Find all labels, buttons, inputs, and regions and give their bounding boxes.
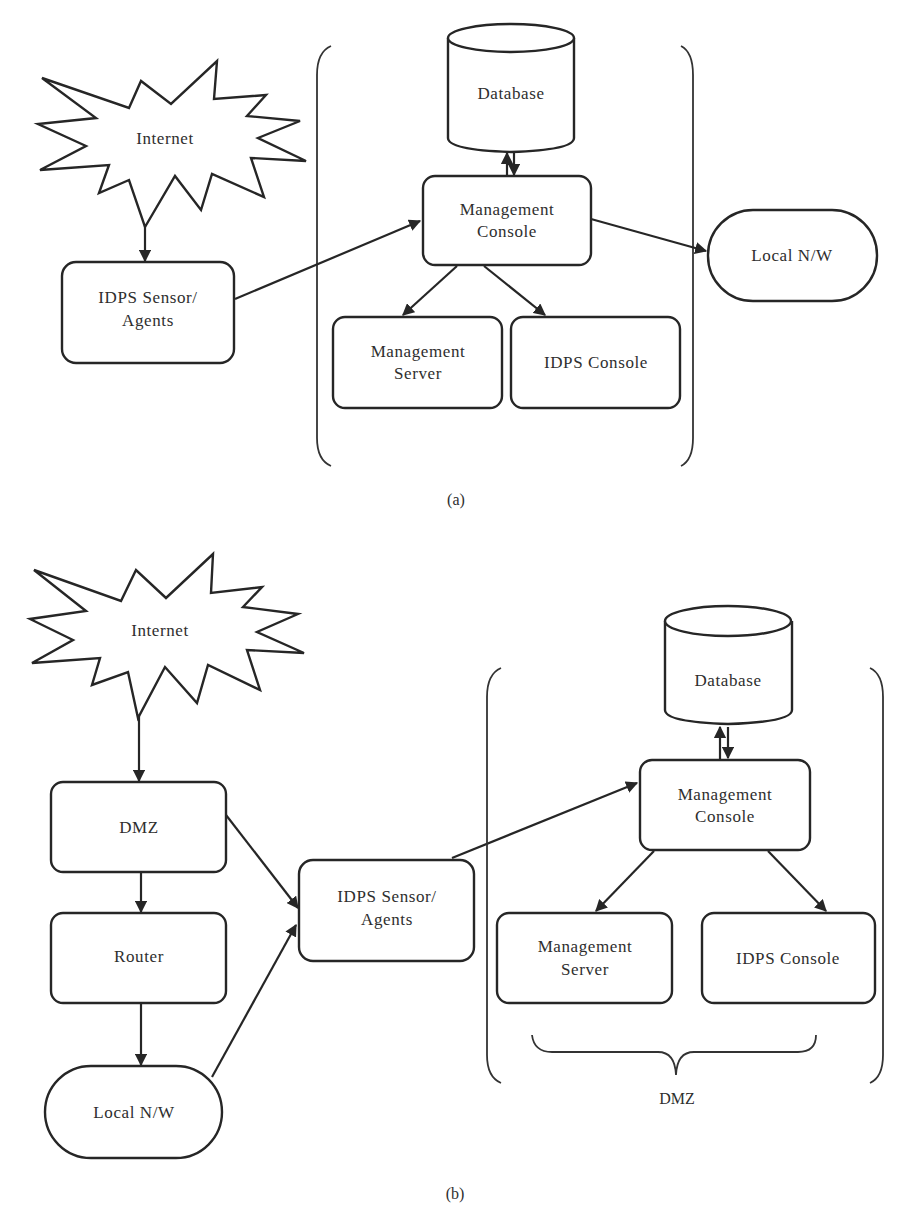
dmz-group-brace <box>532 1035 816 1075</box>
database-label: Database <box>477 84 544 103</box>
edge-console-idpsconsole-b <box>768 851 826 911</box>
left-bracket-b <box>487 668 501 1083</box>
internet-label-b: Internet <box>131 621 189 640</box>
idps-sensor-label-line2: Agents <box>122 311 174 330</box>
local-network-label-b: Local N/W <box>93 1103 175 1122</box>
idps-console-node: IDPS Console <box>511 317 680 408</box>
edge-console-mgmtserver <box>403 266 457 315</box>
dmz-label: DMZ <box>119 818 159 837</box>
database-label-b: Database <box>694 671 761 690</box>
idps-console-label-b: IDPS Console <box>736 949 840 968</box>
management-server-label-b-line2: Server <box>561 960 609 979</box>
router-label: Router <box>114 947 164 966</box>
edge-sensor-console-b <box>452 783 637 858</box>
database-icon <box>665 606 791 636</box>
management-console-node: Management Console <box>423 176 591 265</box>
idps-sensor-node: IDPS Sensor/ Agents <box>62 262 234 363</box>
idps-sensor-node-b: IDPS Sensor/ Agents <box>299 860 474 961</box>
management-server-node-b: Management Server <box>497 913 672 1003</box>
idps-architecture-diagram: Internet IDPS Sensor/ Agents Database Ma… <box>0 0 904 1224</box>
caption-a: (a) <box>447 491 465 509</box>
dmz-node: DMZ <box>51 782 226 872</box>
caption-b: (b) <box>446 1185 465 1203</box>
management-console-node-b: Management Console <box>640 760 810 850</box>
database-node-b: Database <box>665 606 792 724</box>
internet-node: Internet <box>38 61 306 227</box>
idps-sensor-label-line1: IDPS Sensor/ <box>98 288 197 307</box>
edge-console-idpsconsole <box>484 266 545 315</box>
router-node: Router <box>51 913 226 1003</box>
idps-console-label: IDPS Console <box>544 353 648 372</box>
panel-a: Internet IDPS Sensor/ Agents Database Ma… <box>38 24 877 509</box>
right-bracket-b <box>870 668 883 1083</box>
management-server-label-b-line1: Management <box>538 937 633 956</box>
management-server-label-line1: Management <box>371 342 466 361</box>
database-icon <box>448 24 574 52</box>
edge-console-localnw <box>591 219 706 251</box>
local-network-node: Local N/W <box>708 210 877 301</box>
left-bracket <box>317 46 331 466</box>
panel-b: Internet DMZ Router Local N/W <box>30 554 883 1203</box>
management-server-node: Management Server <box>333 317 502 408</box>
local-network-node-b: Local N/W <box>45 1066 222 1158</box>
idps-sensor-label-b-line2: Agents <box>361 910 413 929</box>
internet-label: Internet <box>136 129 194 148</box>
dmz-group-label: DMZ <box>659 1090 695 1107</box>
management-console-label-line2: Console <box>477 222 537 241</box>
management-console-label-b-line1: Management <box>678 785 773 804</box>
management-server-label-line2: Server <box>394 364 442 383</box>
local-network-label: Local N/W <box>751 246 833 265</box>
internet-node-b: Internet <box>30 554 304 718</box>
edge-console-mgmtserver-b <box>596 851 654 911</box>
edge-dmz-sensor <box>226 815 298 908</box>
idps-sensor-label-b-line1: IDPS Sensor/ <box>337 887 436 906</box>
right-bracket <box>681 46 693 466</box>
management-console-label-b-line2: Console <box>695 807 755 826</box>
management-console-label-line1: Management <box>460 200 555 219</box>
database-node: Database <box>448 24 574 152</box>
edge-sensor-console <box>235 221 420 299</box>
idps-console-node-b: IDPS Console <box>702 913 875 1003</box>
